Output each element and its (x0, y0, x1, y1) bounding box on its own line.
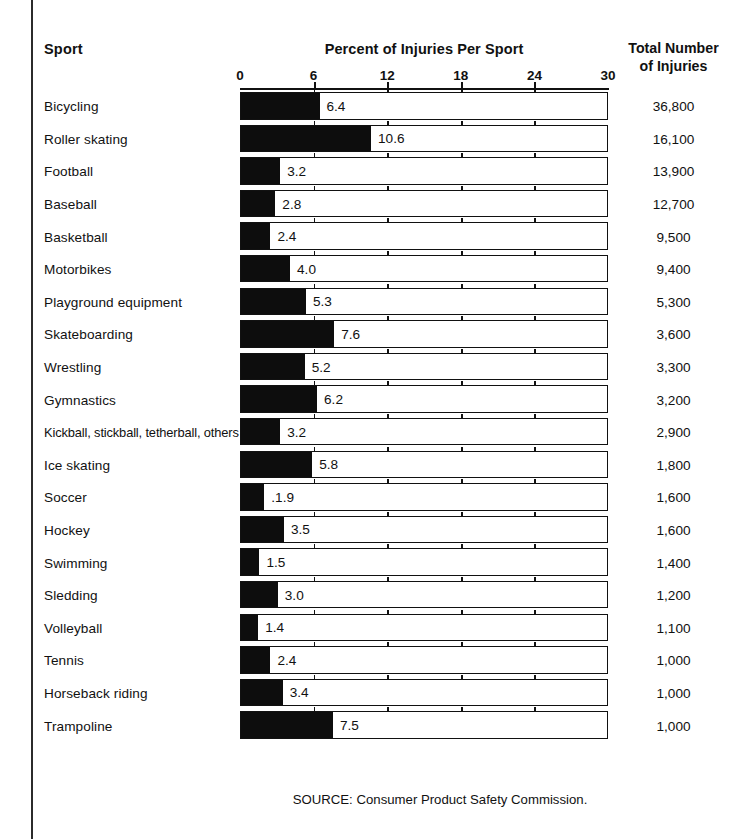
bar-track: 7.6 (240, 320, 608, 348)
bar-value-label: 10.6 (378, 131, 404, 146)
bar-gridline-tick (461, 512, 463, 517)
bar-gridline-tick (314, 642, 316, 647)
row-total-injuries: 3,600 (608, 327, 739, 342)
bar-gridline-tick (314, 707, 316, 712)
row-label-sport: Hockey (44, 523, 90, 538)
bar-track: 3.5 (240, 516, 608, 544)
bar-gridline-tick (534, 675, 536, 680)
row-total-injuries: 1,800 (608, 457, 739, 472)
bar-gridline-tick (461, 447, 463, 452)
bar-fill (241, 582, 278, 608)
column-header-percent: Percent of Injuries Per Sport (240, 41, 608, 57)
bar-track: 1.5 (240, 548, 608, 576)
row-label-sport: Football (44, 164, 93, 179)
bar-gridline-tick (461, 153, 463, 158)
bar-gridline-tick (314, 251, 316, 256)
row-total-injuries: 1,400 (608, 555, 739, 570)
bar-gridline-tick (387, 414, 389, 419)
bar-gridline-tick (534, 610, 536, 615)
bar-fill (241, 321, 334, 347)
bar-gridline-tick (461, 544, 463, 549)
bar-value-label: 3.2 (287, 424, 306, 439)
bar-gridline-tick (387, 512, 389, 517)
x-tick-label-6: 6 (310, 68, 318, 83)
bar-track: 1.4 (240, 614, 608, 642)
bar-gridline-tick (387, 121, 389, 126)
x-axis-tick-mark-12 (387, 82, 389, 89)
bar-gridline-tick (314, 414, 316, 419)
bar-gridline-tick (534, 707, 536, 712)
bar-gridline-tick (534, 153, 536, 158)
bar-gridline-tick (314, 153, 316, 158)
bar-gridline-tick (387, 707, 389, 712)
row-label-sport: Skateboarding (44, 327, 133, 342)
chart-row: Roller skating10.616,100 (0, 123, 739, 156)
bar-value-label: 5.2 (312, 359, 331, 374)
row-label-sport: Wrestling (44, 360, 101, 375)
x-axis-tick-mark-18 (461, 82, 463, 89)
bar-gridline-tick (314, 316, 316, 321)
bar-fill (241, 223, 270, 249)
bar-value-label: 3.2 (287, 163, 306, 178)
bar-track: 3.2 (240, 157, 608, 185)
bar-gridline-tick (314, 381, 316, 386)
bar-value-label: 5.8 (319, 457, 338, 472)
bar-value-label: 5.3 (313, 294, 332, 309)
chart-row: Tennis2.41,000 (0, 644, 739, 677)
bar-gridline-tick (461, 414, 463, 419)
row-label-sport: Baseball (44, 197, 97, 212)
bar-fill (241, 256, 290, 282)
bar-value-label: 3.0 (285, 587, 304, 602)
row-total-injuries: 3,300 (608, 360, 739, 375)
bar-gridline-tick (387, 218, 389, 223)
bar-fill (241, 354, 305, 380)
chart-row: Soccer.1.91,600 (0, 481, 739, 514)
bar-fill (241, 615, 258, 641)
row-total-injuries: 1,600 (608, 490, 739, 505)
row-label-sport: Trampoline (44, 718, 113, 733)
chart-rows: Bicycling6.436,800Roller skating10.616,1… (0, 90, 739, 742)
bar-gridline-tick (387, 610, 389, 615)
bar-gridline-tick (314, 610, 316, 615)
bar-track: 10.6 (240, 125, 608, 153)
row-label-sport: Basketball (44, 229, 108, 244)
bar-track: 5.8 (240, 451, 608, 479)
bar-fill (241, 126, 371, 152)
row-label-sport: Tennis (44, 653, 84, 668)
row-label-sport: Swimming (44, 555, 108, 570)
row-total-injuries: 2,900 (608, 425, 739, 440)
chart-row: Ice skating5.81,800 (0, 449, 739, 482)
bar-gridline-tick (314, 218, 316, 223)
bar-gridline-tick (534, 316, 536, 321)
bar-gridline-tick (314, 544, 316, 549)
bar-track: 5.3 (240, 288, 608, 316)
row-total-injuries: 1,000 (608, 718, 739, 733)
chart-row: Kickball, stickball, tetherball, others3… (0, 416, 739, 449)
row-total-injuries: 1,000 (608, 685, 739, 700)
row-label-sport: Ice skating (44, 457, 110, 472)
chart-row: Horseback riding3.41,000 (0, 677, 739, 710)
x-axis-tick-mark-24 (534, 82, 536, 89)
chart-row: Motorbikes4.09,400 (0, 253, 739, 286)
bar-fill (241, 484, 264, 510)
bar-gridline-tick (387, 447, 389, 452)
chart-row: Gymnastics6.23,200 (0, 383, 739, 416)
bar-track: 4.0 (240, 255, 608, 283)
row-total-injuries: 12,700 (608, 197, 739, 212)
bar-gridline-tick (387, 642, 389, 647)
bar-track: 3.0 (240, 581, 608, 609)
bar-track: 2.4 (240, 222, 608, 250)
row-label-sport: Motorbikes (44, 262, 111, 277)
bar-value-label: .1.9 (271, 489, 294, 504)
chart-row: Bicycling6.436,800 (0, 90, 739, 123)
bar-gridline-tick (314, 479, 316, 484)
bar-fill (241, 93, 320, 119)
bar-gridline-tick (387, 186, 389, 191)
bar-gridline-tick (314, 121, 316, 126)
bar-gridline-tick (314, 577, 316, 582)
bar-gridline-tick (387, 316, 389, 321)
column-header-total: Total Number of Injuries (608, 39, 739, 75)
bar-gridline-tick (534, 121, 536, 126)
bar-gridline-tick (461, 707, 463, 712)
chart-row: Football3.213,900 (0, 155, 739, 188)
